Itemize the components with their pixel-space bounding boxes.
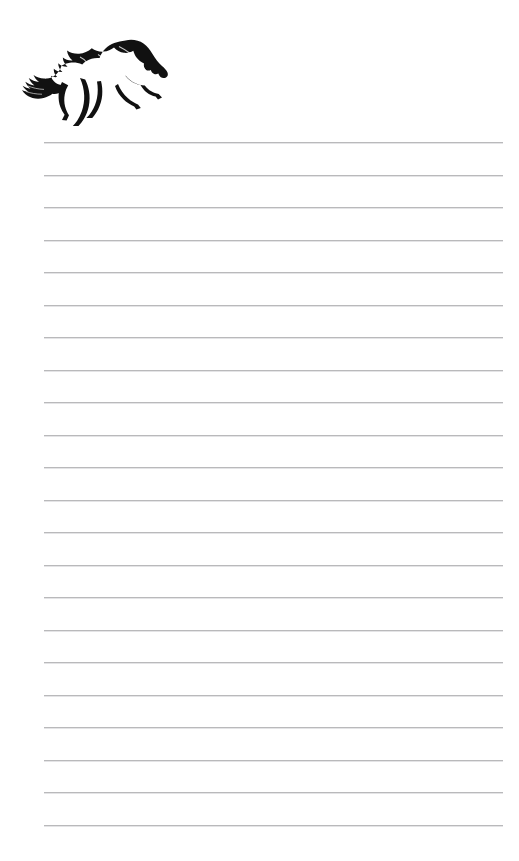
- writing-paper-page: [0, 0, 519, 861]
- writing-area[interactable]: [44, 134, 503, 834]
